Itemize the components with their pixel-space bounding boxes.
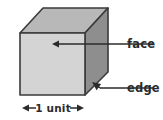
cube-shape — [20, 8, 108, 95]
edge-label: edge — [127, 81, 160, 95]
dimension-label: 1 unit — [35, 102, 71, 114]
cube-diagram-canvas: face edge 1 unit — [0, 0, 163, 120]
cube-diagram-figure: face edge 1 unit — [0, 0, 163, 120]
face-label: face — [127, 37, 155, 51]
cube-front-face — [20, 33, 85, 95]
